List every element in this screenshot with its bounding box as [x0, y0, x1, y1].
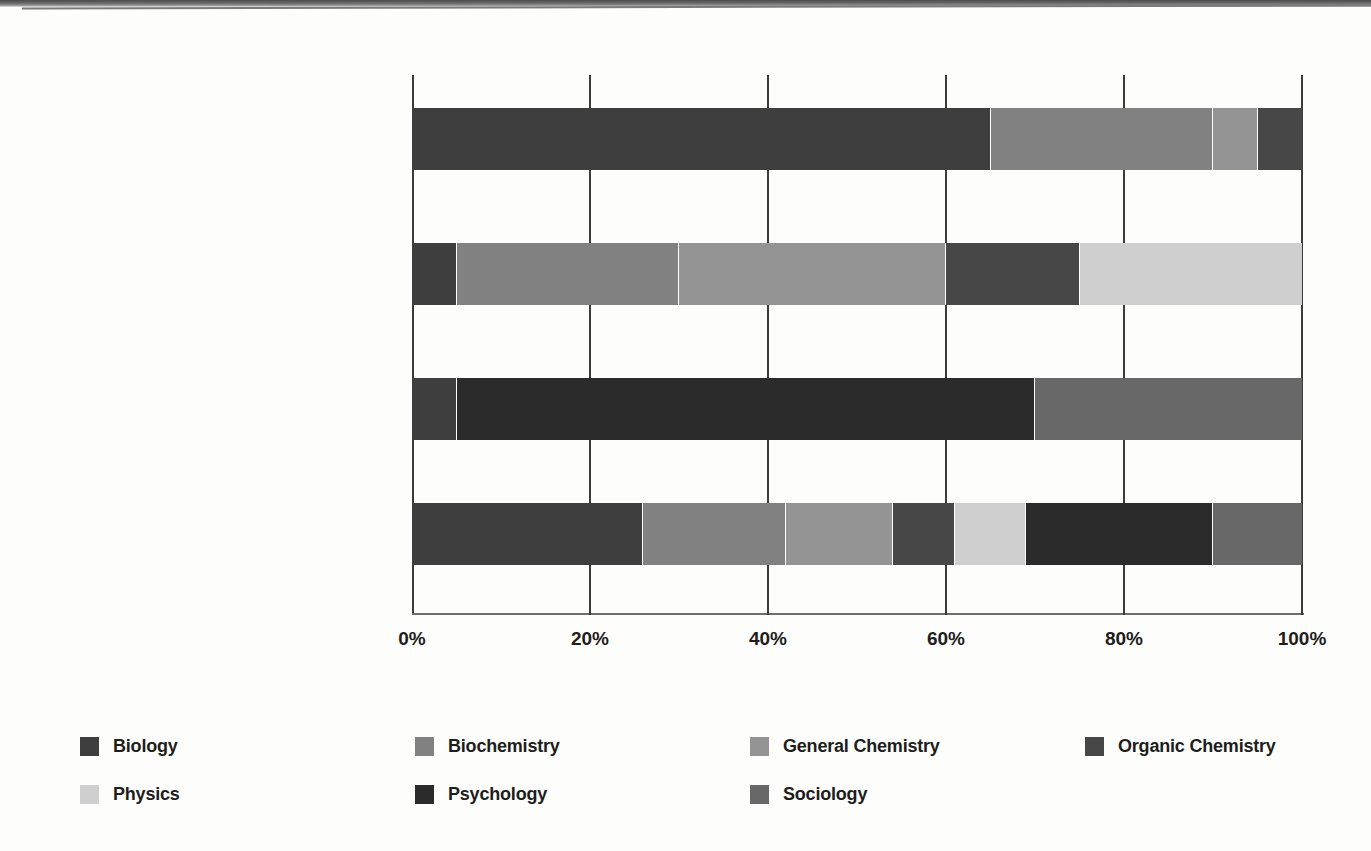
- bar-track: [412, 108, 1302, 170]
- bar-segment-psychology: [1026, 503, 1213, 565]
- legend-label: Organic Chemistry: [1118, 736, 1276, 757]
- legend-swatch-icon: [1085, 737, 1104, 756]
- x-tick-label: 100%: [1278, 628, 1327, 650]
- legend-item-psychology[interactable]: Psychology: [415, 784, 750, 805]
- bar-segment-organic-chemistry: [946, 243, 1080, 305]
- bar-segment-general-chemistry: [679, 243, 946, 305]
- bar-segment-biochemistry: [991, 108, 1214, 170]
- legend-item-general-chemistry[interactable]: General Chemistry: [750, 736, 1085, 757]
- legend-swatch-icon: [415, 737, 434, 756]
- bar-segment-organic-chemistry: [893, 503, 955, 565]
- legend-row: BiologyBiochemistryGeneral ChemistryOrga…: [80, 736, 1340, 757]
- bar-segment-general-chemistry: [786, 503, 893, 565]
- x-tick-label: 20%: [571, 628, 609, 650]
- bar-segment-organic-chemistry: [1258, 108, 1303, 170]
- legend-item-biology[interactable]: Biology: [80, 736, 415, 757]
- x-tick-label: 80%: [1105, 628, 1143, 650]
- bar-row: [412, 243, 1302, 305]
- bar-segment-general-chemistry: [1213, 108, 1258, 170]
- legend-label: Sociology: [783, 784, 867, 805]
- bar-segment-biology: [412, 243, 457, 305]
- bar-row: [412, 108, 1302, 170]
- legend-swatch-icon: [750, 737, 769, 756]
- bar-track: [412, 378, 1302, 440]
- legend-item-organic-chemistry[interactable]: Organic Chemistry: [1085, 736, 1371, 757]
- bar-segment-physics: [1080, 243, 1303, 305]
- bar-row: [412, 378, 1302, 440]
- bar-segment-biology: [412, 503, 643, 565]
- legend-swatch-icon: [750, 785, 769, 804]
- x-tick-label: 0%: [398, 628, 425, 650]
- x-tick-label: 60%: [927, 628, 965, 650]
- legend-swatch-icon: [80, 737, 99, 756]
- bar-segment-sociology: [1035, 378, 1302, 440]
- legend-row: PhysicsPsychologySociology: [80, 784, 1340, 805]
- plot-area: [412, 75, 1302, 615]
- legend-label: Physics: [113, 784, 180, 805]
- x-tick-label: 40%: [749, 628, 787, 650]
- stacked-bar-chart: Biological and BiochemicalFoundations of…: [0, 0, 1371, 851]
- bar-segment-biochemistry: [643, 503, 785, 565]
- x-axis-line: [412, 613, 1304, 615]
- bar-track: [412, 243, 1302, 305]
- bar-segment-physics: [955, 503, 1026, 565]
- legend-item-physics[interactable]: Physics: [80, 784, 415, 805]
- legend-swatch-icon: [80, 785, 99, 804]
- legend-label: Biology: [113, 736, 178, 757]
- legend-label: Psychology: [448, 784, 547, 805]
- legend-label: General Chemistry: [783, 736, 940, 757]
- bar-segment-biology: [412, 108, 991, 170]
- chart-legend: BiologyBiochemistryGeneral ChemistryOrga…: [80, 736, 1340, 832]
- legend-label: Biochemistry: [448, 736, 560, 757]
- bar-segment-biochemistry: [457, 243, 680, 305]
- bar-segment-psychology: [457, 378, 1036, 440]
- legend-item-biochemistry[interactable]: Biochemistry: [415, 736, 750, 757]
- bar-row: [412, 503, 1302, 565]
- legend-item-sociology[interactable]: Sociology: [750, 784, 1085, 805]
- bar-segment-sociology: [1213, 503, 1302, 565]
- bar-segment-biology: [412, 378, 457, 440]
- legend-swatch-icon: [415, 785, 434, 804]
- bar-track: [412, 503, 1302, 565]
